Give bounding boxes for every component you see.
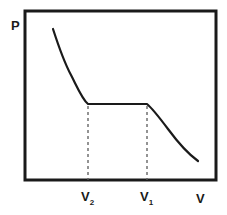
y-axis-label: P — [11, 18, 20, 33]
tick-label-v1-base: V — [140, 189, 149, 204]
tick-label-v1-subscript: 1 — [149, 198, 154, 207]
tick-label-v2-subscript: 2 — [90, 198, 95, 207]
pv-diagram: P V V2 V1 — [0, 0, 227, 215]
figure-background — [0, 0, 227, 215]
tick-label-v2-base: V — [81, 189, 90, 204]
x-axis-label: V — [196, 191, 205, 206]
